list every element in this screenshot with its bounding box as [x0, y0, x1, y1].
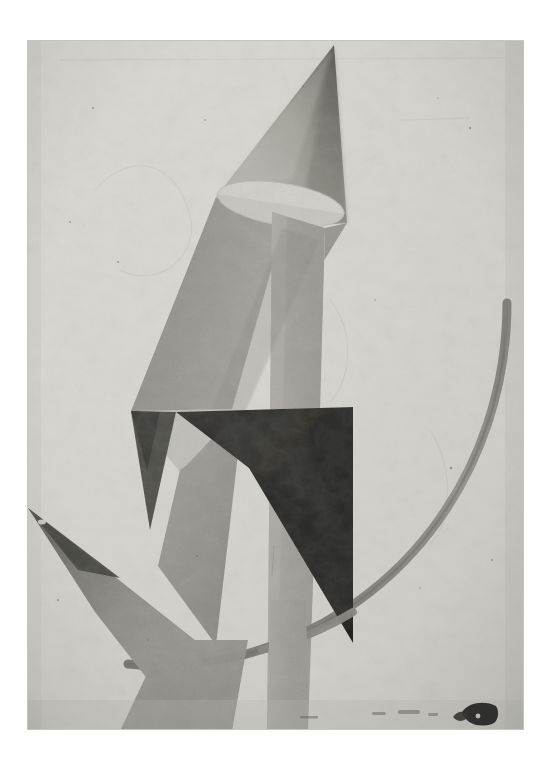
- painting-photograph: [0, 0, 550, 759]
- screenshot-root: abstract geometric / constructivist phot…: [0, 0, 550, 759]
- film-grain: [27, 40, 524, 730]
- painting-surface: [27, 40, 524, 731]
